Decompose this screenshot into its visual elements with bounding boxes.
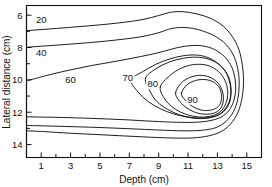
contour-plot-svg: 204060708090 13579111315 68101214 Depth … <box>0 0 272 187</box>
x-axis-title: Depth (cm) <box>119 174 168 185</box>
x-tick-label-13: 13 <box>212 160 223 171</box>
y-tick-label-10: 10 <box>12 74 23 85</box>
y-tick-label-12: 12 <box>12 107 23 118</box>
contour-label-70: 70 <box>123 72 134 83</box>
contour-lines-group <box>27 12 243 139</box>
x-tick-label-15: 15 <box>242 160 253 171</box>
contour-label-20: 20 <box>36 14 47 25</box>
contour-plot-figure: 204060708090 13579111315 68101214 Depth … <box>0 0 272 187</box>
x-axis-tick-labels: 13579111315 <box>39 160 253 171</box>
contour-label-80: 80 <box>148 78 159 89</box>
x-tick-label-1: 1 <box>39 160 44 171</box>
x-tick-label-5: 5 <box>97 160 102 171</box>
y-tick-label-8: 8 <box>17 42 22 53</box>
y-axis-title: Lateral distance (cm) <box>1 35 12 128</box>
contour-label-60: 60 <box>65 74 76 85</box>
x-tick-label-3: 3 <box>68 160 73 171</box>
x-tick-label-11: 11 <box>183 160 193 171</box>
contour-line-80 <box>160 64 228 117</box>
contour-label-40: 40 <box>36 47 47 58</box>
y-tick-label-14: 14 <box>12 139 23 150</box>
x-tick-label-9: 9 <box>156 160 161 171</box>
contour-label-90: 90 <box>187 94 198 105</box>
y-axis-tick-labels: 68101214 <box>12 10 23 150</box>
x-tick-label-7: 7 <box>127 160 132 171</box>
x-axis-ticks <box>41 153 247 158</box>
contour-line-20 <box>27 12 243 139</box>
y-tick-label-6: 6 <box>17 10 22 21</box>
